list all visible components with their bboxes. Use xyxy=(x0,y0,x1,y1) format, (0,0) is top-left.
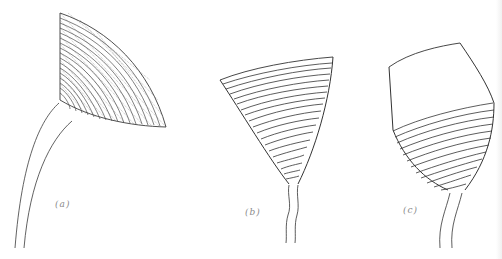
panel-a-drawing xyxy=(15,13,166,248)
panel-a-label: (a) xyxy=(55,199,70,209)
page-edge xyxy=(496,0,502,259)
panel-c-label: (c) xyxy=(403,205,418,215)
panel-b-label: (b) xyxy=(245,207,261,217)
figure: (a) (b) (c) xyxy=(0,0,502,259)
illustration xyxy=(0,0,502,259)
panel-c-drawing xyxy=(389,43,494,248)
panel-b-drawing xyxy=(220,57,333,243)
